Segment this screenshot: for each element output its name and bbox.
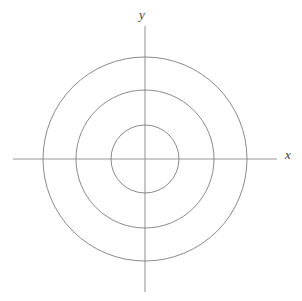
axes-group bbox=[13, 26, 277, 292]
y-axis-label: y bbox=[139, 8, 145, 21]
plot-canvas bbox=[0, 0, 302, 301]
x-axis-label: x bbox=[285, 148, 291, 161]
coordinate-plot-figure: y x bbox=[0, 0, 302, 301]
